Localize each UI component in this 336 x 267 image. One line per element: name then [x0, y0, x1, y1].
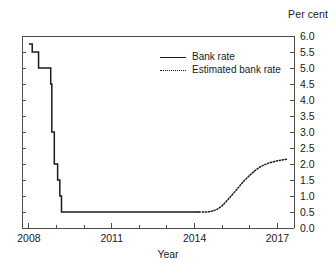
legend-label-estimated-bank-rate: Estimated bank rate — [192, 63, 281, 76]
y-tick-label: 4.0 — [300, 94, 315, 106]
chart-legend: Bank rate Estimated bank rate — [160, 50, 281, 76]
y-tick-label: 5.0 — [300, 62, 315, 74]
legend-swatch-dotted-line-icon — [160, 65, 186, 75]
series-line — [199, 159, 287, 212]
y-tick-label: 5.5 — [300, 46, 315, 58]
y-tick-label: 3.5 — [300, 110, 315, 122]
legend-item-estimated-bank-rate: Estimated bank rate — [160, 63, 281, 76]
y-tick-label: 1.0 — [300, 190, 315, 202]
x-axis-title: Year — [0, 248, 336, 260]
bank-rate-line-chart: 0.00.51.01.52.02.53.03.54.04.55.05.56.0 … — [0, 0, 336, 267]
y-axis-tick-labels: 0.00.51.01.52.02.53.03.54.04.55.05.56.0 — [300, 30, 315, 234]
legend-item-bank-rate: Bank rate — [160, 50, 281, 63]
x-tick-label: 2008 — [17, 232, 41, 244]
x-axis-ticks — [29, 223, 278, 228]
y-tick-label: 0.5 — [300, 206, 315, 218]
y-tick-label: 3.0 — [300, 126, 315, 138]
x-tick-label: 2017 — [266, 232, 290, 244]
legend-label-bank-rate: Bank rate — [192, 50, 235, 63]
legend-swatch-solid-line-icon — [160, 52, 186, 62]
y-tick-label: 2.0 — [300, 158, 315, 170]
y-tick-label: 4.5 — [300, 78, 315, 90]
y-tick-label: 6.0 — [300, 30, 315, 42]
y-tick-label: 1.5 — [300, 174, 315, 186]
chart-figure: Per cent 0.00.51.01.52.02.53.03.54.04.55… — [0, 0, 336, 267]
y-tick-label: 2.5 — [300, 142, 315, 154]
x-axis-tick-labels: 2008201120142017 — [17, 232, 289, 244]
y-tick-label: 0.0 — [300, 222, 315, 234]
x-tick-label: 2014 — [183, 232, 207, 244]
x-tick-label: 2011 — [100, 232, 123, 244]
